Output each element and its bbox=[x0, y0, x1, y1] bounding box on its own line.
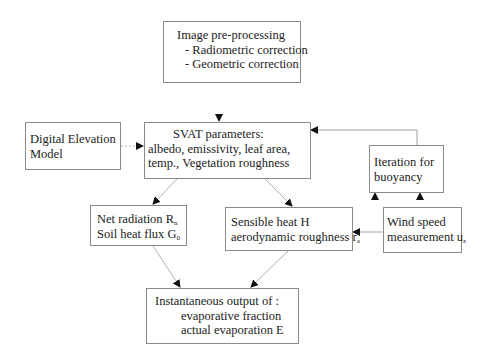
wind-measurement-label: measurement u bbox=[387, 230, 463, 244]
node-iteration: Iteration for buoyancy bbox=[369, 145, 444, 193]
soil-heat-flux-subscript: 0 bbox=[177, 234, 181, 242]
iteration-line: Iteration for bbox=[374, 155, 443, 170]
arrow-iteration-to-svat bbox=[311, 130, 417, 145]
node-net-radiation: Net radiation Rn Soil heat flux G0 bbox=[90, 205, 187, 246]
wind-speed-label: Wind speed bbox=[387, 215, 461, 230]
preprocessing-title: Image pre-processing bbox=[177, 28, 300, 43]
wind-measurement-subscript: z bbox=[463, 237, 466, 245]
aerodynamic-roughness-label: aerodynamic roughness r bbox=[231, 230, 357, 244]
node-preprocessing: Image pre-processing - Radiometric corre… bbox=[163, 21, 301, 83]
arrow-svat-to-net-radiation bbox=[153, 179, 177, 204]
output-title: Instantaneous output of : bbox=[155, 294, 298, 309]
node-svat: SVAT parameters: albedo, emissivity, lea… bbox=[144, 122, 311, 179]
preprocessing-item: - Geometric correction bbox=[177, 57, 300, 72]
flowchart-canvas: Image pre-processing - Radiometric corre… bbox=[0, 0, 485, 363]
output-item: evaporative fraction bbox=[155, 309, 298, 324]
svat-line: temp., Vegetation roughness bbox=[148, 156, 310, 171]
dem-line: Model bbox=[30, 147, 120, 162]
preprocessing-item: - Radiometric correction bbox=[177, 43, 300, 58]
soil-heat-flux-label: Soil heat flux G bbox=[97, 227, 177, 241]
arrow-sensible-heat-to-output bbox=[251, 251, 288, 287]
net-radiation-label: Net radiation R bbox=[97, 212, 174, 226]
sensible-heat-label: Sensible heat H bbox=[231, 215, 352, 230]
arrow-svat-to-sensible-heat bbox=[265, 179, 292, 206]
svat-title: SVAT parameters: bbox=[148, 127, 310, 142]
dem-line: Digital Elevation bbox=[30, 132, 120, 147]
node-sensible-heat: Sensible heat H aerodynamic roughness ra bbox=[225, 207, 353, 251]
iteration-line: buoyancy bbox=[374, 170, 443, 185]
node-dem: Digital Elevation Model bbox=[25, 122, 121, 170]
aerodynamic-roughness-subscript: a bbox=[357, 237, 360, 245]
node-wind-speed: Wind speed measurement uz bbox=[383, 207, 462, 253]
output-item: actual evaporation E bbox=[155, 323, 298, 338]
svat-line: albedo, emissivity, leaf area, bbox=[148, 142, 310, 157]
arrow-net-radiation-to-output bbox=[153, 246, 180, 287]
node-output: Instantaneous output of : evaporative fr… bbox=[146, 288, 299, 344]
